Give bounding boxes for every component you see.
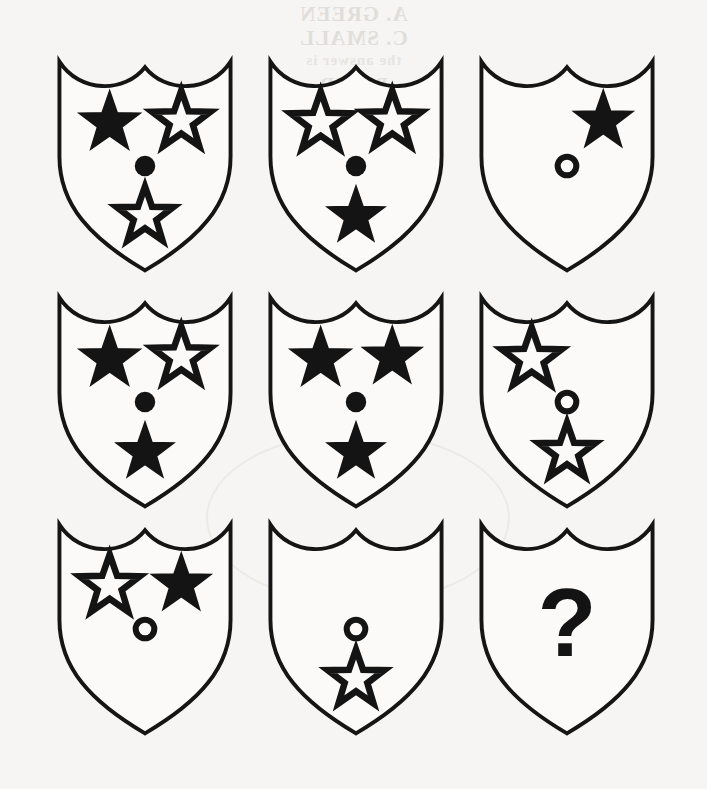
shield-graphic xyxy=(52,519,238,739)
shield-matrix-grid: ? xyxy=(0,0,707,789)
answer-question-mark: ? xyxy=(537,568,596,677)
shield-graphic xyxy=(263,519,449,739)
cell-r1c1[interactable] xyxy=(52,56,238,276)
shield-graphic xyxy=(474,56,660,276)
shield-graphic xyxy=(263,292,449,512)
center-dot-outline xyxy=(347,620,366,639)
cell-r3c1[interactable] xyxy=(52,519,238,739)
cell-r2c3[interactable] xyxy=(474,292,660,512)
puzzle-page: A. GREEN C. SMALL the answer is B. RED ? xyxy=(0,0,707,789)
shield-graphic xyxy=(52,56,238,276)
shield-graphic xyxy=(474,292,660,512)
center-dot-outline xyxy=(558,157,577,176)
center-dot-filled xyxy=(346,392,366,413)
cell-r1c3[interactable] xyxy=(474,56,660,276)
center-dot-filled xyxy=(135,392,155,413)
center-dot-filled xyxy=(346,156,366,177)
shield-graphic: ? xyxy=(474,519,660,739)
cell-r2c2[interactable] xyxy=(263,292,449,512)
cell-r3c3-answer[interactable]: ? xyxy=(474,519,660,739)
center-dot-filled xyxy=(135,156,155,177)
shield-graphic xyxy=(52,292,238,512)
shield-graphic xyxy=(263,56,449,276)
cell-r1c2[interactable] xyxy=(263,56,449,276)
center-dot-outline xyxy=(558,393,577,412)
center-dot-outline xyxy=(136,620,155,639)
cell-r2c1[interactable] xyxy=(52,292,238,512)
cell-r3c2[interactable] xyxy=(263,519,449,739)
